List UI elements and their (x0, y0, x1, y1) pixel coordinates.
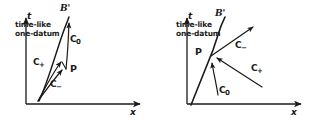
p-to-boundary-connector-left (62, 62, 66, 69)
caption-line2-left: one-datum (15, 30, 60, 38)
characteristic-c0-label-right: C0 (219, 86, 230, 97)
diagram-panel-left: t x time-like one-datum B' C0 C+ C− P (0, 0, 160, 125)
point-p-label-left: P (70, 64, 77, 74)
caption-line1-left: time-like (15, 21, 51, 29)
diagram-panel-right: t x time-like one-datum B' C− C+ C0 P (161, 0, 321, 125)
characteristic-c0-left (66, 23, 69, 69)
diagram-left-canvas (0, 0, 160, 125)
boundary-label-right: B' (215, 9, 225, 18)
caption-line1-right: time-like (176, 21, 212, 29)
characteristic-c0-label-left: C0 (70, 35, 81, 46)
characteristic-cplus-label-right: C+ (251, 64, 263, 75)
characteristic-cminus-label-left: C− (50, 80, 62, 91)
characteristic-c0-right (212, 63, 218, 95)
diagram-right-canvas (161, 0, 321, 125)
x-axis-label-right: x (291, 108, 297, 117)
characteristic-cplus-label-left: C+ (33, 58, 45, 69)
boundary-label-left: B' (60, 4, 70, 13)
x-axis-label-left: x (130, 108, 136, 117)
caption-line2-right: one-datum (176, 30, 221, 38)
characteristic-cminus-label-right: C− (235, 41, 247, 52)
figure-container: t x time-like one-datum B' C0 C+ C− P (0, 0, 321, 125)
point-p-label-right: P (195, 47, 202, 57)
